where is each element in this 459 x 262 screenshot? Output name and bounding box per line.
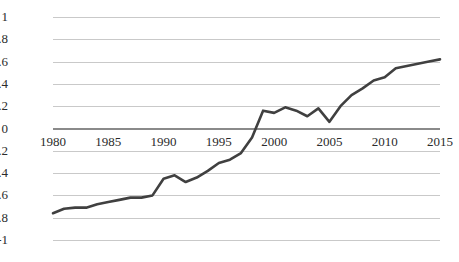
temperature-anomaly-line: [53, 59, 440, 213]
y-tick-label: 0: [2, 122, 9, 135]
plot-area: [53, 17, 440, 240]
y-tick-label: 0.4: [0, 77, 8, 90]
y-tick-label: 0.6: [0, 55, 8, 68]
y-tick-label: -0.8: [0, 211, 8, 224]
y-tick-label: -0.2: [0, 144, 8, 157]
gridline: [53, 240, 440, 241]
y-tick-label: 1: [2, 10, 9, 23]
y-tick-label: -1: [0, 233, 8, 246]
y-tick-label: 0.2: [0, 99, 8, 112]
y-tick-label: 0.8: [0, 32, 8, 45]
line-chart: 10.80.60.40.20-0.2-0.4-0.6-0.8-1 1980198…: [0, 0, 459, 262]
y-tick-label: -0.6: [0, 188, 8, 201]
y-tick-label: -0.4: [0, 166, 8, 179]
data-series-svg: [53, 17, 440, 240]
